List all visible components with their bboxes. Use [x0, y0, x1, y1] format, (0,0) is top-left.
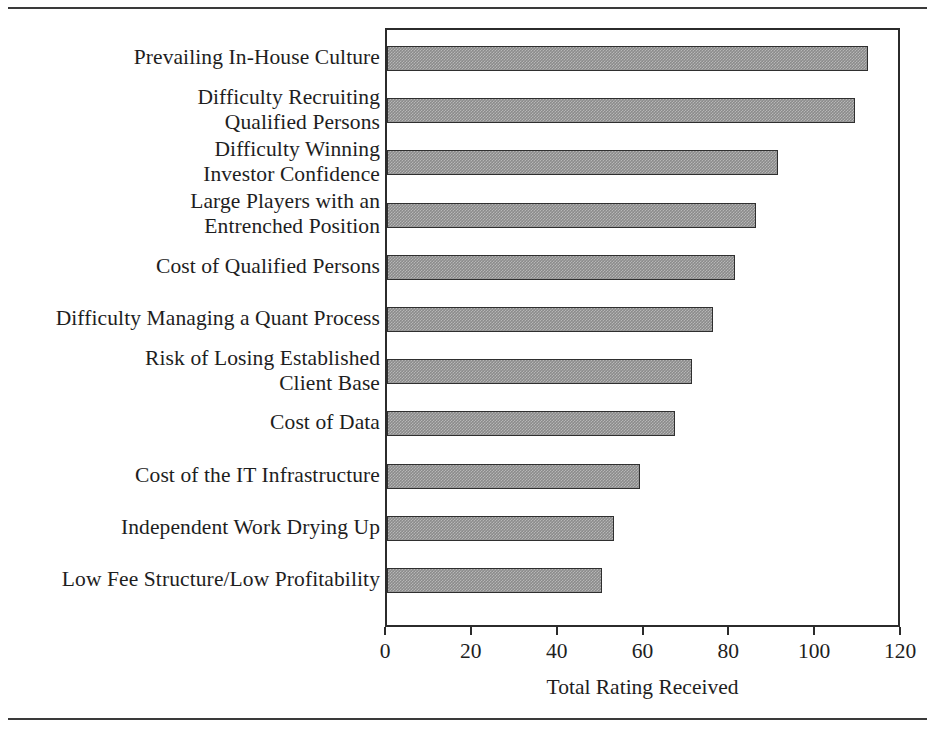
bar	[387, 307, 713, 332]
bar	[387, 464, 640, 489]
category-label: Prevailing In-House Culture	[0, 45, 380, 70]
bar	[387, 150, 778, 175]
x-tick-label: 120	[884, 639, 916, 663]
category-label: Large Players with an Entrenched Positio…	[0, 189, 380, 239]
x-tick-label: 40	[546, 639, 568, 663]
x-tick-mark	[556, 627, 558, 635]
x-tick-mark	[727, 627, 729, 635]
x-tick-mark	[813, 627, 815, 635]
x-tick-label: 60	[632, 639, 654, 663]
x-tick-mark	[470, 627, 472, 635]
category-label: Low Fee Structure/Low Profitability	[0, 567, 380, 592]
x-tick-mark	[384, 627, 386, 635]
x-tick-mark	[642, 627, 644, 635]
x-tick-label: 0	[380, 639, 391, 663]
bar	[387, 568, 602, 593]
x-tick-label: 100	[798, 639, 830, 663]
x-tick-label: 20	[460, 639, 482, 663]
category-label: Independent Work Drying Up	[0, 515, 380, 540]
x-tick-label: 80	[718, 639, 740, 663]
bar	[387, 98, 855, 123]
figure-bottom-rule	[8, 718, 927, 720]
bar	[387, 255, 735, 280]
category-label: Cost of Data	[0, 410, 380, 435]
bar	[387, 359, 692, 384]
category-label: Difficulty Recruiting Qualified Persons	[0, 85, 380, 135]
category-label: Difficulty Managing a Quant Process	[0, 306, 380, 331]
bar	[387, 411, 675, 436]
category-label: Cost of Qualified Persons	[0, 254, 380, 279]
category-label: Risk of Losing Established Client Base	[0, 346, 380, 396]
figure: Prevailing In-House CultureDifficulty Re…	[0, 0, 935, 735]
category-label: Cost of the IT Infrastructure	[0, 463, 380, 488]
bar	[387, 46, 868, 71]
x-axis-title: Total Rating Received	[385, 674, 900, 700]
plot-area	[385, 28, 900, 627]
x-tick-mark	[899, 627, 901, 635]
category-axis: Prevailing In-House CultureDifficulty Re…	[0, 28, 380, 628]
bar	[387, 203, 756, 228]
category-label: Difficulty Winning Investor Confidence	[0, 137, 380, 187]
figure-top-rule	[8, 7, 927, 9]
bar	[387, 516, 614, 541]
